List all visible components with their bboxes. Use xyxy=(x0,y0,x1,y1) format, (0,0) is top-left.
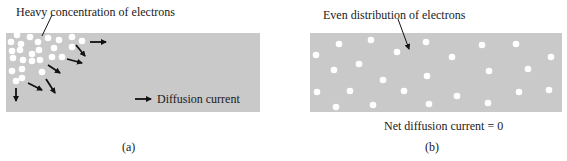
electron-dot xyxy=(29,51,36,58)
panel-a-label: (a) xyxy=(122,141,135,153)
electron-dot xyxy=(9,48,16,55)
electron-dot xyxy=(368,37,375,44)
electron-dot xyxy=(27,34,34,41)
electron-dot xyxy=(18,41,25,48)
electron-dot xyxy=(380,77,387,84)
electron-dot xyxy=(56,37,63,44)
diffusion-diagram xyxy=(0,0,567,161)
electron-dot xyxy=(14,32,21,39)
electron-dot xyxy=(69,34,76,41)
electron-dot xyxy=(19,66,26,73)
caption-net-diffusion-current: Net diffusion current = 0 xyxy=(384,120,503,132)
electron-dot xyxy=(8,39,15,46)
electron-dot xyxy=(35,39,42,46)
panel-b-even-distribution xyxy=(310,33,562,112)
electron-dot xyxy=(394,49,401,56)
electron-dot xyxy=(20,57,27,64)
electron-dot xyxy=(485,100,492,107)
panel-b-label: (b) xyxy=(425,141,439,153)
electron-dot xyxy=(424,73,431,80)
electron-dot xyxy=(516,89,523,96)
electron-dot xyxy=(39,69,46,76)
electron-dot xyxy=(19,75,26,82)
electron-dot xyxy=(333,104,340,111)
legend-diffusion-current: Diffusion current xyxy=(157,93,240,105)
electron-dot xyxy=(331,67,338,74)
electron-dot xyxy=(479,42,486,49)
electron-dot xyxy=(454,93,461,100)
electron-dot xyxy=(336,41,343,48)
electron-dot xyxy=(9,68,16,75)
electron-dot xyxy=(525,66,532,73)
electron-dot xyxy=(548,54,555,61)
electron-dot xyxy=(356,61,363,68)
electron-dot xyxy=(401,88,408,95)
electron-dot xyxy=(59,54,66,61)
electron-dot xyxy=(17,47,24,54)
electron-dot xyxy=(314,89,321,96)
electron-dot xyxy=(313,52,320,59)
annotation-heavy-concentration: Heavy concentration of electrons xyxy=(16,6,175,18)
electron-dot xyxy=(486,68,493,75)
electron-dot xyxy=(426,101,433,108)
panel-b-semiconductor-bar xyxy=(310,33,562,112)
electron-dot xyxy=(69,44,76,51)
electron-dot xyxy=(29,58,36,65)
electron-dot xyxy=(546,87,553,94)
electron-dot xyxy=(10,55,17,62)
electron-dot xyxy=(347,88,354,95)
electron-dot xyxy=(45,35,52,42)
electron-dot xyxy=(49,54,56,61)
electron-dot xyxy=(51,45,58,52)
electron-dot xyxy=(13,78,20,85)
electron-dot xyxy=(79,38,86,45)
electron-dot xyxy=(36,47,43,54)
annotation-even-distribution: Even distribution of electrons xyxy=(323,9,465,21)
electron-dot xyxy=(37,57,44,64)
electron-dot xyxy=(423,39,430,46)
electron-dot xyxy=(370,102,377,109)
electron-dot xyxy=(513,41,520,48)
electron-dot xyxy=(449,54,456,61)
